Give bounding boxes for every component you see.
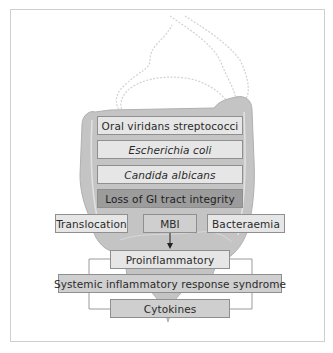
box-translocation: Translocation [55, 214, 128, 233]
mechanism-label: MBI [160, 218, 180, 230]
cascade-label: Cytokines [144, 303, 197, 315]
box-cytokines: Cytokines [110, 299, 230, 318]
stomach-outline [116, 16, 236, 115]
box-mbi: MBI [143, 214, 197, 233]
mechanism-label: Bacteraemia [212, 218, 280, 230]
organism-label: Oral viridans streptococci [102, 120, 239, 132]
box-bacteraemia: Bacteraemia [207, 214, 285, 233]
box-sirs: Systemic inflammatory response syndrome [58, 274, 282, 293]
event-label: Loss of GI tract integrity [105, 193, 234, 205]
mechanism-label: Translocation [56, 218, 127, 230]
box-escherichia-coli: Escherichia coli [97, 140, 243, 159]
organism-label: Escherichia coli [129, 144, 212, 156]
cascade-label: Systemic inflammatory response syndrome [54, 278, 286, 290]
box-candida-albicans: Candida albicans [97, 165, 243, 184]
box-proinflammatory: Proinflammatory [110, 250, 230, 269]
cascade-label: Proinflammatory [126, 254, 215, 266]
box-loss-of-gi-integrity: Loss of GI tract integrity [97, 189, 243, 208]
organism-label: Candida albicans [124, 169, 215, 181]
box-oral-viridans-streptococci: Oral viridans streptococci [97, 116, 243, 135]
